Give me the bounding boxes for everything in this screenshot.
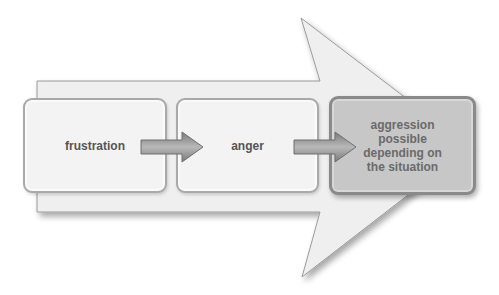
arrow-right-icon: [293, 130, 359, 164]
step-frustration-label: frustration: [65, 139, 125, 153]
step-aggression-label: aggression possible depending on the sit…: [363, 118, 442, 174]
arrow-right-icon: [140, 130, 206, 164]
step-anger-label: anger: [231, 139, 264, 153]
